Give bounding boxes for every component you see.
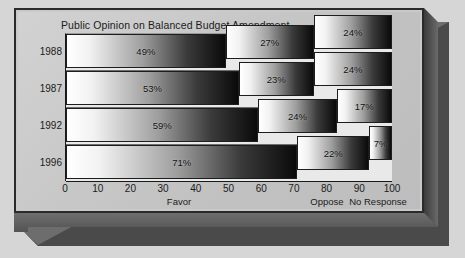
- bar-value-label: 59%: [153, 120, 172, 131]
- x-axis-tick-80: 80: [321, 183, 332, 194]
- bar-segment-no-response[interactable]: 24%: [314, 52, 392, 86]
- bar-value-label: 24%: [288, 111, 307, 122]
- bar-value-label: 49%: [136, 46, 155, 57]
- x-axis-tick-60: 60: [256, 183, 267, 194]
- x-axis-tick-90: 90: [354, 183, 365, 194]
- series-label-no-response: No Response: [349, 196, 407, 207]
- bar-value-label: 22%: [324, 148, 343, 159]
- x-axis-tick-30: 30: [158, 183, 169, 194]
- bar-value-label: 23%: [267, 74, 286, 85]
- bar-segment-favor[interactable]: 71%: [66, 145, 297, 179]
- bar-segment-oppose[interactable]: 27%: [226, 25, 314, 59]
- bar-segment-favor[interactable]: 53%: [66, 71, 239, 105]
- bar-value-label: 27%: [260, 37, 279, 48]
- bar-segment-no-response[interactable]: 7%: [369, 126, 392, 160]
- x-axis-tick-50: 50: [223, 183, 234, 194]
- y-axis-label-1987: 1987: [26, 83, 62, 94]
- chart-row-1996: 71% 22% 7%: [66, 145, 392, 182]
- frame-side-wall: [424, 8, 438, 227]
- x-axis-tick-40: 40: [190, 183, 201, 194]
- y-axis-label-1992: 1992: [26, 120, 62, 131]
- bar-value-label: 7%: [374, 138, 388, 149]
- bar-segment-favor[interactable]: 49%: [66, 34, 226, 68]
- bar-segment-oppose[interactable]: 24%: [258, 99, 336, 133]
- x-axis-tick-70: 70: [288, 183, 299, 194]
- y-axis-label-1988: 1988: [26, 46, 62, 57]
- bar-segment-no-response[interactable]: 17%: [337, 89, 392, 123]
- bar-value-label: 53%: [143, 83, 162, 94]
- chart-face: Public Opinion on Balanced Budget Amendm…: [14, 8, 424, 213]
- bar-segment-oppose[interactable]: 23%: [239, 62, 314, 96]
- bar-value-label: 71%: [172, 157, 191, 168]
- chart-3d-frame: Public Opinion on Balanced Budget Amendm…: [14, 8, 451, 248]
- x-axis-tick-10: 10: [92, 183, 103, 194]
- bar-segment-oppose[interactable]: 22%: [297, 136, 369, 170]
- x-axis-tick-0: 0: [62, 183, 68, 194]
- bar-value-label: 17%: [355, 101, 374, 112]
- x-axis-tick-100: 100: [384, 183, 401, 194]
- bar-value-label: 24%: [343, 64, 362, 75]
- bar-segment-no-response[interactable]: 24%: [314, 15, 392, 49]
- y-axis-label-1996: 1996: [26, 157, 62, 168]
- plot-area: 49% 27% 24% 53% 23% 24%: [65, 33, 392, 181]
- x-axis-tick-20: 20: [125, 183, 136, 194]
- series-label-oppose: Oppose: [310, 196, 343, 207]
- bar-value-label: 24%: [343, 27, 362, 38]
- bar-segment-favor[interactable]: 59%: [66, 108, 258, 142]
- series-label-favor: Favor: [167, 196, 191, 207]
